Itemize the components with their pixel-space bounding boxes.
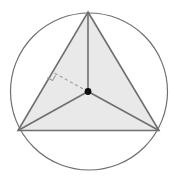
circumcenter-dot bbox=[85, 88, 92, 95]
geometry-diagram-svg bbox=[0, 0, 175, 183]
geometry-figure bbox=[0, 0, 175, 183]
